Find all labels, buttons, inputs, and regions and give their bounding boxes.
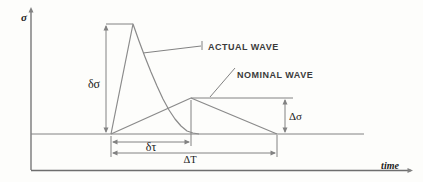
delta-t-label: ΔT [183, 154, 197, 165]
arrowhead-left-icon [112, 151, 118, 156]
sigma-axis-label: σ [21, 11, 28, 23]
actual-wave [111, 24, 199, 134]
arrowhead-down-icon [104, 128, 109, 134]
arrowhead-down-icon [283, 128, 288, 134]
nominal-wave [111, 98, 277, 134]
arrowhead-left-icon [112, 140, 118, 145]
line-leader-nominal [210, 68, 235, 97]
text-labels: σ time ACTUAL WAVE NOMINAL WAVE δσ δτ ΔT… [21, 11, 399, 171]
stress-wave-figure: σ time ACTUAL WAVE NOMINAL WAVE δσ δτ ΔT… [0, 0, 423, 182]
cap-delta-sigma-label: Δσ [289, 110, 302, 122]
nominal-wave-label: NOMINAL WAVE [237, 70, 313, 80]
time-axis-label: time [381, 160, 399, 171]
arrowheads [29, 7, 414, 173]
arrowhead-right-icon [185, 140, 191, 145]
arrowhead-right-icon [408, 168, 414, 173]
line-leader-actual [143, 46, 201, 53]
arrowhead-up-icon [29, 7, 34, 13]
delta-tau-label: δτ [146, 140, 157, 154]
delta-sigma-label: δσ [88, 77, 101, 91]
wave-diagram: σ time ACTUAL WAVE NOMINAL WAVE δσ δτ ΔT… [0, 0, 423, 182]
arrowhead-up-icon [104, 25, 109, 31]
arrowhead-up-icon [283, 99, 288, 105]
arrowhead-right-icon [271, 151, 277, 156]
actual-wave-label: ACTUAL WAVE [208, 42, 279, 52]
